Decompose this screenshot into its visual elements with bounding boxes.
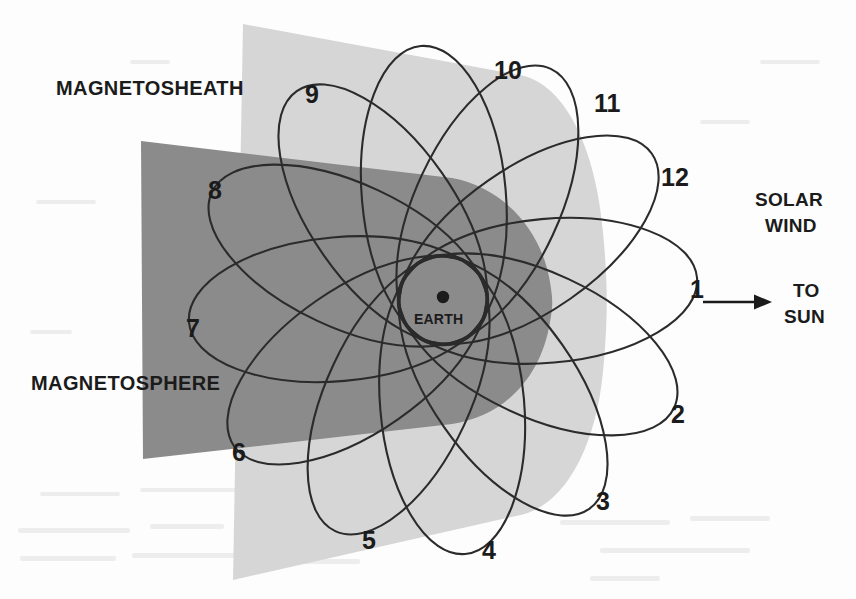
orbit-number-7: 7: [186, 316, 200, 341]
orbit-number-2: 2: [671, 402, 685, 427]
to-sun-label-line1: TO: [793, 281, 820, 300]
solar-wind-label-line2: WIND: [765, 216, 817, 235]
figure-canvas: MAGNETOSHEATH MAGNETOSPHERE EARTH SOLAR …: [0, 0, 856, 599]
region-label-magnetosheath: MAGNETOSHEATH: [56, 78, 244, 98]
orbit-number-6: 6: [232, 440, 246, 465]
to-sun-label-line2: SUN: [784, 307, 825, 326]
orbit-number-11: 11: [594, 91, 620, 116]
region-label-magnetosphere: MAGNETOSPHERE: [31, 373, 220, 393]
orbit-number-8: 8: [208, 178, 222, 203]
orbit-number-5: 5: [362, 528, 376, 553]
orbit-number-4: 4: [482, 538, 496, 563]
solar-wind-label-line1: SOLAR: [755, 190, 823, 209]
earth-label: EARTH: [414, 312, 463, 326]
orbit-number-9: 9: [305, 82, 319, 107]
solar-wind-arrow: [703, 295, 772, 310]
earth-body-dot: [437, 291, 449, 303]
orbit-number-3: 3: [596, 489, 610, 514]
orbit-number-10: 10: [494, 58, 522, 83]
orbit-number-12: 12: [661, 165, 689, 190]
orbit-number-1: 1: [690, 277, 704, 302]
